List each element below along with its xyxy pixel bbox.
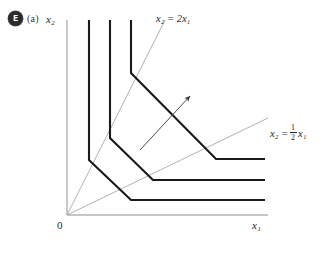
x-axis-label: x₁ (252, 219, 261, 231)
figure-header: ᴇ (a) (8, 9, 39, 27)
y-axis-label: x₂ (46, 13, 55, 25)
direction-arrow-group (140, 96, 190, 150)
ray-label-shallow: x₂ = 1 2 x₁ (270, 124, 306, 142)
figure-container: ᴇ (a) x₂ x₁ 0 x₂ = 2x₁ x₂ = 1 2 x₁ (0, 0, 330, 255)
figure-badge-icon: ᴇ (8, 11, 23, 26)
axes-group (67, 20, 268, 215)
increasing-output-arrow (140, 96, 190, 150)
ray-label-shallow-lead: x₂ = (270, 128, 288, 139)
fraction-denominator: 2 (291, 134, 295, 142)
figure-panel-label: (a) (27, 13, 39, 24)
one-half-fraction: 1 2 (290, 124, 297, 142)
fraction-numerator: 1 (291, 124, 295, 132)
ray-label-steep: x₂ = 2x₁ (156, 13, 190, 24)
ray-label-shallow-tail: x₁ (298, 128, 306, 139)
reference-rays-group (67, 20, 268, 215)
origin-label: 0 (57, 219, 63, 231)
isoquant-curve-middle (110, 20, 265, 180)
